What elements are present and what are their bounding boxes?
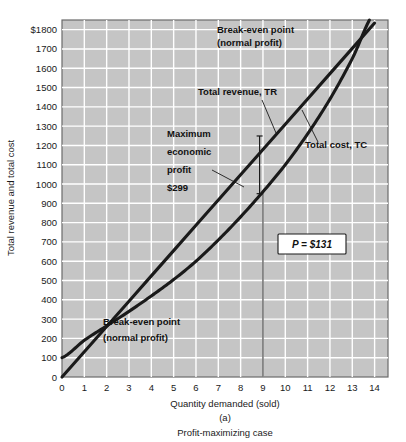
- y-tick-1800: $1800: [31, 24, 57, 35]
- x-tick-7: 7: [216, 382, 221, 393]
- breakeven-upper-label-line1: Break-even point: [217, 24, 295, 35]
- x-tick-2: 2: [104, 382, 109, 393]
- total-revenue-label: Total revenue, TR: [198, 86, 277, 97]
- x-axis-tick-labels: 01234567891011121314: [59, 382, 380, 393]
- max-profit-amount: $299: [167, 182, 188, 193]
- breakeven-lower-label-line1: Break-even point: [103, 316, 181, 327]
- y-tick-1200: 1200: [36, 140, 57, 151]
- y-axis-tick-labels: $180017001600150014001300120011001000900…: [31, 24, 57, 382]
- y-tick-300: 300: [41, 314, 57, 325]
- x-tick-14: 14: [369, 382, 380, 393]
- x-tick-10: 10: [280, 382, 291, 393]
- x-tick-0: 0: [59, 382, 64, 393]
- panel-letter: (a): [219, 412, 231, 423]
- x-tick-4: 4: [149, 382, 154, 393]
- max-profit-label-line3: profit: [167, 164, 192, 175]
- x-tick-5: 5: [171, 382, 176, 393]
- y-tick-1700: 1700: [36, 43, 57, 54]
- breakeven-upper-label-line2: (normal profit): [217, 37, 282, 48]
- x-tick-6: 6: [193, 382, 198, 393]
- y-tick-0: 0: [52, 372, 57, 383]
- x-tick-3: 3: [126, 382, 131, 393]
- y-tick-1400: 1400: [36, 101, 57, 112]
- x-tick-1: 1: [82, 382, 87, 393]
- x-axis-title: Quantity demanded (sold): [170, 398, 279, 409]
- y-tick-1500: 1500: [36, 82, 57, 93]
- y-tick-900: 900: [41, 198, 57, 209]
- y-tick-100: 100: [41, 352, 57, 363]
- total-cost-label: Total cost, TC: [305, 139, 367, 150]
- x-tick-12: 12: [325, 382, 336, 393]
- y-tick-500: 500: [41, 275, 57, 286]
- x-tick-11: 11: [303, 382, 313, 393]
- x-tick-9: 9: [260, 382, 265, 393]
- figure-caption: Profit-maximizing case: [177, 427, 273, 438]
- figure-container: $180017001600150014001300120011001000900…: [0, 0, 406, 442]
- y-tick-700: 700: [41, 236, 57, 247]
- y-tick-400: 400: [41, 294, 57, 305]
- max-profit-label-line1: Maximum: [167, 128, 211, 139]
- max-profit-label-line2: economic: [167, 146, 211, 157]
- y-tick-1100: 1100: [37, 159, 57, 170]
- profit-maximizing-chart: $180017001600150014001300120011001000900…: [0, 0, 406, 442]
- price-label: P = $131: [292, 239, 332, 250]
- y-tick-1600: 1600: [36, 63, 57, 74]
- x-tick-13: 13: [347, 382, 358, 393]
- breakeven-lower-label-line2: (normal profit): [103, 332, 168, 343]
- y-tick-1000: 1000: [36, 179, 57, 190]
- x-tick-8: 8: [238, 382, 243, 393]
- y-tick-600: 600: [41, 256, 57, 267]
- y-tick-1300: 1300: [36, 121, 57, 132]
- y-tick-800: 800: [41, 217, 57, 228]
- y-tick-200: 200: [41, 333, 57, 344]
- y-axis-title: Total revenue and total cost: [5, 140, 16, 257]
